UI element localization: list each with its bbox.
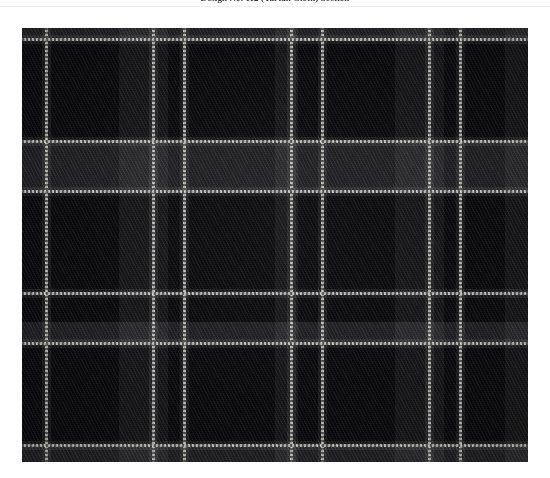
overcheck-vertical-line xyxy=(290,28,293,462)
overcheck-vertical-line xyxy=(321,28,324,462)
overcheck-vertical-line xyxy=(459,28,462,462)
overcheck-horizontal-line xyxy=(22,190,528,193)
overcheck-vertical-line xyxy=(45,28,48,462)
overcheck-vertical-line xyxy=(183,28,186,462)
overcheck-horizontal-line xyxy=(22,140,528,143)
caption-divider xyxy=(0,6,550,7)
fabric-overcheck-lines xyxy=(22,28,528,462)
page-root: Design No. 112 (Tartan Cloth) Section xyxy=(0,0,550,478)
overcheck-horizontal-line xyxy=(22,342,528,345)
overcheck-horizontal-line xyxy=(22,38,528,41)
overcheck-vertical-line xyxy=(152,28,155,462)
overcheck-horizontal-line xyxy=(22,444,528,447)
figure-caption: Design No. 112 (Tartan Cloth) Section xyxy=(0,0,550,3)
overcheck-vertical-line xyxy=(428,28,431,462)
overcheck-horizontal-line xyxy=(22,292,528,295)
tartan-plaid-swatch xyxy=(22,28,528,462)
